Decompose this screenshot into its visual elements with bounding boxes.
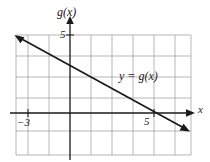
graph-figure: g(x) x y = g(x) 5 5 −3 <box>0 0 210 162</box>
x-axis-label: x <box>198 104 203 115</box>
x-axis <box>10 109 195 117</box>
function-line-g <box>15 35 191 132</box>
x-tick-label-5: 5 <box>144 116 150 127</box>
grid-lines <box>16 35 191 155</box>
curve-equation-label: y = g(x) <box>119 70 158 82</box>
x-tick-label-negative-3: −3 <box>17 117 30 128</box>
y-tick-label-5: 5 <box>60 29 66 40</box>
coordinate-plane <box>0 0 210 162</box>
y-axis <box>66 16 74 160</box>
y-axis-label: g(x) <box>57 6 76 18</box>
